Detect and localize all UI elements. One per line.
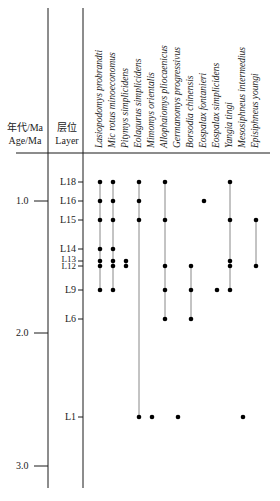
- occurrence-dot: [241, 415, 246, 420]
- occurrence-dot: [202, 199, 207, 204]
- layer-tick-label: L1: [65, 411, 76, 422]
- species-label: Eospalax simplicidens: [211, 63, 221, 148]
- occurrence-dot: [254, 218, 259, 223]
- age-tick-label: 2.0: [16, 327, 29, 338]
- layer-header: 层位 Layer: [50, 121, 84, 147]
- age-tick-label: 1.0: [16, 195, 29, 206]
- occurrence-dot: [98, 264, 103, 269]
- layer-tick-label: L18: [60, 176, 76, 187]
- species-label: Episiphneus youngi: [250, 73, 260, 148]
- layer-tick-label: L6: [65, 313, 76, 324]
- occurrence-dot: [111, 264, 116, 269]
- age-header: 年代/Ma Age/Ma: [2, 121, 48, 147]
- occurrence-dot: [163, 264, 168, 269]
- species-label: Yangia tingi: [224, 102, 234, 148]
- occurrence-dot: [111, 199, 116, 204]
- species-label: Eolagurus simplicidens: [133, 59, 143, 148]
- species-label: Mimomys orientalis: [146, 72, 156, 148]
- occurrence-dot: [111, 247, 116, 252]
- layer-tick-label: L12: [62, 261, 77, 271]
- occurrence-dot: [228, 264, 233, 269]
- occurrence-dot: [137, 218, 142, 223]
- occurrence-dot: [137, 415, 142, 420]
- occurrence-dot: [228, 180, 233, 185]
- occurrence-dot: [228, 218, 233, 223]
- occurrence-dot: [124, 264, 129, 269]
- species-label: Borsodia chinensis: [185, 75, 195, 148]
- species-label: Germanomys progressivus: [172, 47, 182, 148]
- occurrence-dot: [176, 415, 181, 420]
- occurrence-dot: [228, 288, 233, 293]
- occurrence-dot: [189, 264, 194, 269]
- occurrence-dot: [228, 259, 233, 264]
- occurrence-dot: [137, 180, 142, 185]
- occurrence-dot: [98, 247, 103, 252]
- species-label: Mesosiphneus intermedius: [237, 47, 247, 148]
- occurrence-dot: [189, 317, 194, 322]
- occurrence-dot: [98, 199, 103, 204]
- layer-tick-label: L14: [60, 243, 76, 254]
- age-header-en: Age/Ma: [2, 134, 48, 147]
- occurrence-dot: [98, 288, 103, 293]
- occurrence-dot: [163, 288, 168, 293]
- occurrence-dot: [98, 218, 103, 223]
- occurrence-dot: [189, 288, 194, 293]
- occurrence-dot: [98, 259, 103, 264]
- species-label: Pitymys simplicidens: [120, 68, 130, 148]
- species-label: Allophaiomys pliocaenicus: [159, 45, 169, 148]
- species-label: Mic rotus minoeconomus: [107, 52, 117, 148]
- occurrence-dot: [111, 218, 116, 223]
- occurrence-dot: [163, 180, 168, 185]
- occurrence-dot: [111, 180, 116, 185]
- occurrence-dot: [124, 259, 129, 264]
- occurrence-dot: [137, 199, 142, 204]
- occurrence-dot: [98, 180, 103, 185]
- layer-tick-label: L16: [60, 195, 76, 206]
- age-tick-label: 3.0: [16, 460, 29, 471]
- species-label: Eospalax fontanieri: [198, 73, 208, 148]
- layer-tick-label: L15: [60, 214, 76, 225]
- occurrence-dot: [163, 317, 168, 322]
- layer-header-cn: 层位: [50, 121, 84, 134]
- occurrence-dot: [111, 288, 116, 293]
- layer-header-en: Layer: [50, 134, 84, 147]
- layer-tick-label: L9: [65, 284, 76, 295]
- occurrence-dot: [150, 415, 155, 420]
- species-label: Lasiopodomys probrandti: [94, 50, 104, 148]
- age-header-cn: 年代/Ma: [2, 121, 48, 134]
- occurrence-dot: [254, 264, 259, 269]
- occurrence-dot: [111, 259, 116, 264]
- occurrence-dot: [215, 288, 220, 293]
- occurrence-dot: [163, 218, 168, 223]
